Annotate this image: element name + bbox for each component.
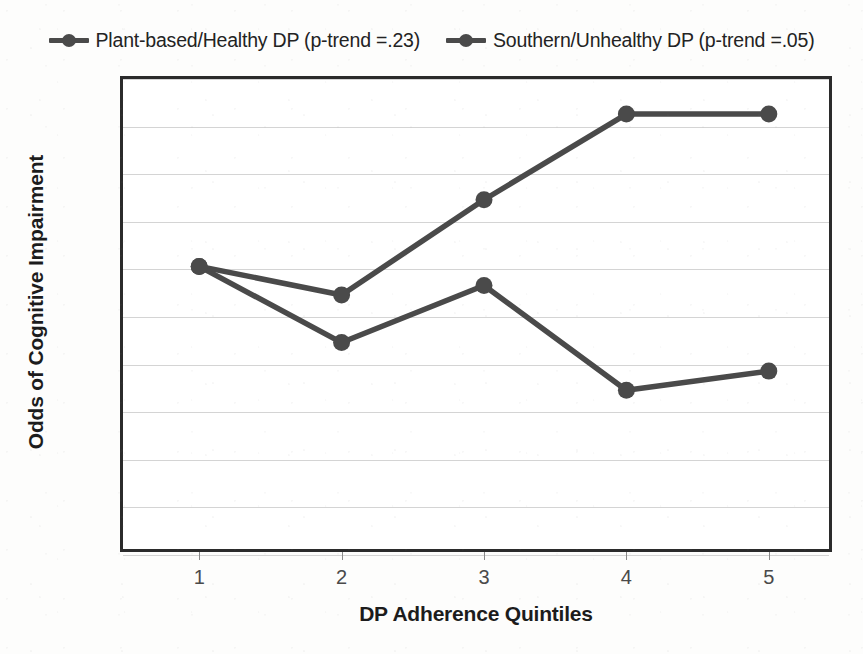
legend-entry-southern[interactable]: Southern/Unhealthy DP (p-trend =.05) (446, 29, 814, 52)
data-point-marker (191, 258, 208, 275)
data-point-marker (760, 363, 777, 380)
x-tick-mark (626, 552, 627, 560)
data-series-layer (120, 76, 832, 552)
chart-legend: Plant-based/Healthy DP (p-trend =.23) So… (0, 22, 863, 58)
data-point-marker (618, 106, 635, 123)
chart-figure: Plant-based/Healthy DP (p-trend =.23) So… (0, 0, 863, 654)
x-tick-label: 2 (302, 566, 382, 589)
x-tick-mark (342, 552, 343, 560)
data-point-marker (760, 106, 777, 123)
data-point-marker (476, 277, 493, 294)
data-point-marker (333, 334, 350, 351)
x-tick-label: 1 (159, 566, 239, 589)
y-axis-title: Odds of Cognitive Impairment (24, 92, 48, 512)
x-axis-title: DP Adherence Quintiles (120, 602, 832, 626)
legend-label-plant-based: Plant-based/Healthy DP (p-trend =.23) (96, 29, 420, 52)
data-point-marker (333, 286, 350, 303)
x-tick-mark (769, 552, 770, 560)
line-circle-marker-icon (49, 32, 89, 48)
legend-label-southern: Southern/Unhealthy DP (p-trend =.05) (493, 29, 814, 52)
data-point-marker (476, 191, 493, 208)
line-circle-marker-icon (446, 32, 486, 48)
x-tick-mark (199, 552, 200, 560)
data-point-marker (618, 382, 635, 399)
x-tick-mark (484, 552, 485, 560)
x-tick-label: 5 (729, 566, 809, 589)
x-tick-label: 3 (444, 566, 524, 589)
gridline (123, 555, 829, 556)
legend-entry-plant-based[interactable]: Plant-based/Healthy DP (p-trend =.23) (49, 29, 420, 52)
x-tick-label: 4 (586, 566, 666, 589)
